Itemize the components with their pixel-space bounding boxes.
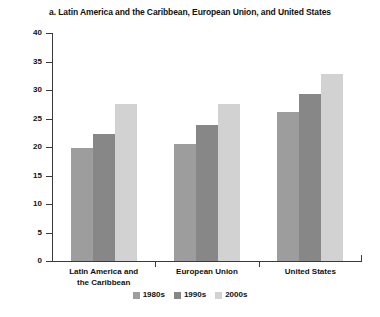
bar-chart: a. Latin America and the Caribbean, Euro…	[0, 0, 380, 317]
x-axis-category-label: Latin America andthe Caribbean	[52, 266, 155, 288]
bar	[174, 144, 196, 261]
x-axis-line	[52, 261, 362, 262]
legend-label: 1990s	[184, 291, 206, 299]
bar	[299, 94, 321, 261]
bar	[277, 112, 299, 261]
y-axis-tick-label: 15	[12, 172, 42, 180]
legend-item[interactable]: 2000s	[215, 291, 247, 299]
x-axis-category-label-line: the Caribbean	[52, 277, 155, 288]
y-axis-tick-label: 40	[12, 29, 42, 37]
legend-swatch-icon	[215, 292, 222, 299]
bar	[196, 125, 218, 261]
bar	[115, 104, 137, 261]
legend-label: 1980s	[143, 291, 165, 299]
y-axis-tick-label: 5	[12, 229, 42, 237]
legend-swatch-icon	[174, 292, 181, 299]
y-axis-tick-label: 10	[12, 200, 42, 208]
bars-layer	[52, 33, 362, 261]
y-axis-tick-label: 35	[12, 58, 42, 66]
x-axis-category-label-line: Latin America and	[52, 266, 155, 277]
y-axis-tick-label: 20	[12, 143, 42, 151]
legend-item[interactable]: 1990s	[174, 291, 206, 299]
chart-title: a. Latin America and the Caribbean, Euro…	[0, 7, 380, 17]
y-axis-tick-label: 25	[12, 115, 42, 123]
y-axis-tick-label: 0	[12, 257, 42, 265]
legend-swatch-icon	[133, 292, 140, 299]
x-axis-group-separator	[259, 261, 260, 267]
x-axis-group-separator	[155, 261, 156, 267]
bar	[71, 148, 93, 261]
y-axis-tick	[46, 261, 52, 262]
x-axis-category-label-line: European Union	[155, 266, 258, 277]
bar	[218, 104, 240, 261]
chart-legend: 1980s1990s2000s	[0, 291, 380, 299]
x-axis-category-label: European Union	[155, 266, 258, 277]
bar	[321, 74, 343, 261]
bar	[93, 134, 115, 261]
y-axis-tick-label: 30	[12, 86, 42, 94]
x-axis-category-label-line: United States	[259, 266, 362, 277]
x-axis-category-label: United States	[259, 266, 362, 277]
legend-item[interactable]: 1980s	[133, 291, 165, 299]
legend-label: 2000s	[225, 291, 247, 299]
